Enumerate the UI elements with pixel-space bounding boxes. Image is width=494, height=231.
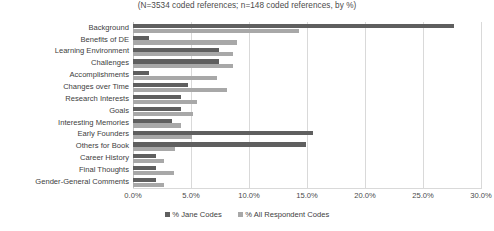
bar-row <box>133 141 481 153</box>
bar-row <box>133 34 481 46</box>
bar-all-benefits-of-de <box>133 40 237 44</box>
bar-jane-research-interests <box>133 95 181 99</box>
bar-all-goals <box>133 112 193 116</box>
legend-item-jane-codes[interactable]: % Jane Codes <box>165 210 222 219</box>
bar-row <box>133 164 481 176</box>
category-label-accomplishments: Accomplishments <box>0 71 129 79</box>
category-label-career-history: Career History <box>0 154 129 162</box>
x-tick-label: 5.0% <box>168 191 214 200</box>
bar-row <box>133 129 481 141</box>
axis-baseline <box>133 188 482 189</box>
bar-row <box>133 105 481 117</box>
bar-all-career-history <box>133 159 164 163</box>
bar-row <box>133 58 481 70</box>
bar-jane-learning-environment <box>133 48 219 52</box>
legend-item-all-respondent-codes[interactable]: % All Respondent Codes <box>238 210 330 219</box>
legend-swatch-icon <box>165 212 170 217</box>
category-label-challenges: Challenges <box>0 59 129 67</box>
bar-jane-gender-general-comments <box>133 178 156 182</box>
bar-all-final-thoughts <box>133 171 174 175</box>
category-label-final-thoughts: Final Thoughts <box>0 166 129 174</box>
bar-all-learning-environment <box>133 52 233 56</box>
legend-label: % All Respondent Codes <box>245 210 329 219</box>
bar-jane-goals <box>133 107 181 111</box>
legend-swatch-icon <box>238 212 243 217</box>
x-tick-label: 20.0% <box>342 191 388 200</box>
x-tick-label: 10.0% <box>226 191 272 200</box>
bar-jane-others-for-book <box>133 142 306 146</box>
category-label-research-interests: Research Interests <box>0 95 129 103</box>
bar-all-accomplishments <box>133 76 217 80</box>
plot-area <box>133 22 481 188</box>
category-label-changes-over-time: Changes over Time <box>0 83 129 91</box>
category-label-goals: Goals <box>0 107 129 115</box>
x-tick-label: 15.0% <box>284 191 330 200</box>
bar-all-others-for-book <box>133 147 175 151</box>
category-label-benefits-of-de: Benefits of DE <box>0 36 129 44</box>
chart-title: (N=3534 coded references; n=148 coded re… <box>0 1 494 10</box>
bar-all-gender-general-comments <box>133 183 164 187</box>
chart-legend: % Jane Codes% All Respondent Codes <box>0 210 494 219</box>
x-tick-label: 30.0% <box>458 191 494 200</box>
category-label-background: Background <box>0 24 129 32</box>
legend-label: % Jane Codes <box>172 210 221 219</box>
category-label-others-for-book: Others for Book <box>0 142 129 150</box>
bar-row <box>133 69 481 81</box>
bar-row <box>133 176 481 188</box>
bar-row <box>133 152 481 164</box>
category-axis-labels: BackgroundBenefits of DELearning Environ… <box>0 22 129 188</box>
bar-row <box>133 93 481 105</box>
x-axis-tick-labels: 0.0%5.0%10.0%15.0%20.0%25.0%30.0% <box>0 191 494 203</box>
bar-jane-early-founders <box>133 131 313 135</box>
bar-jane-career-history <box>133 154 156 158</box>
bar-all-background <box>133 29 299 33</box>
category-label-early-founders: Early Founders <box>0 130 129 138</box>
bar-jane-final-thoughts <box>133 166 156 170</box>
bar-row <box>133 46 481 58</box>
bar-jane-benefits-of-de <box>133 36 149 40</box>
bar-jane-challenges <box>133 59 219 63</box>
bar-all-challenges <box>133 64 233 68</box>
gridline-30.0pct <box>481 22 482 188</box>
bar-all-changes-over-time <box>133 88 227 92</box>
bar-jane-background <box>133 24 454 28</box>
category-label-gender-general-comments: Gender-General Comments <box>0 178 129 186</box>
bar-all-early-founders <box>133 135 192 139</box>
category-label-learning-environment: Learning Environment <box>0 47 129 55</box>
bar-jane-changes-over-time <box>133 83 188 87</box>
bar-row <box>133 22 481 34</box>
bar-chart: (N=3534 coded references; n=148 coded re… <box>0 0 494 231</box>
bar-jane-accomplishments <box>133 71 149 75</box>
bar-row <box>133 117 481 129</box>
x-tick-label: 25.0% <box>400 191 446 200</box>
bar-rows <box>133 22 481 188</box>
bar-row <box>133 81 481 93</box>
bar-all-research-interests <box>133 100 197 104</box>
x-tick-label: 0.0% <box>110 191 156 200</box>
bar-jane-interesting-memories <box>133 119 172 123</box>
category-label-interesting-memories: Interesting Memories <box>0 119 129 127</box>
bar-all-interesting-memories <box>133 123 181 127</box>
